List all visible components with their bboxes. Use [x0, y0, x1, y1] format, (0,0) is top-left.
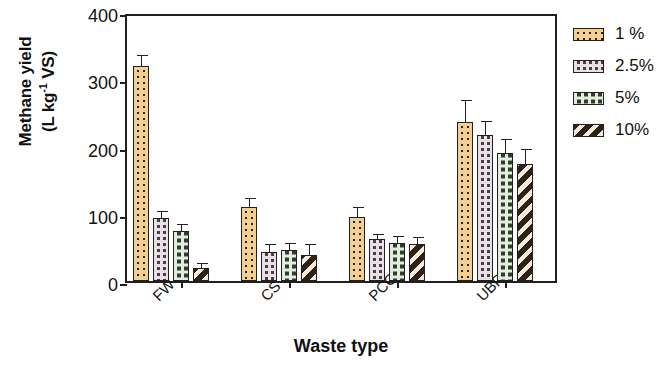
y-axis-title: Methane yield (L kg-1 VS)	[16, 0, 59, 202]
y-axis-tick-label: 0	[108, 275, 118, 296]
bar	[517, 164, 533, 281]
error-bar	[181, 225, 182, 231]
bar	[173, 231, 189, 281]
bar	[477, 135, 493, 281]
y-axis-title-line2: (L kg-1 VS)	[37, 0, 59, 202]
x-axis-tick	[289, 281, 291, 288]
error-bar	[357, 208, 358, 217]
error-bar	[269, 245, 270, 252]
error-bar	[465, 101, 466, 121]
error-bar	[417, 238, 418, 244]
bar	[409, 244, 425, 281]
error-bar	[201, 264, 202, 268]
bar	[301, 255, 317, 281]
error-bar	[141, 56, 142, 65]
legend-item: 1 %	[573, 18, 665, 50]
error-bar	[525, 150, 526, 164]
legend: 1 %2.5%5%10%	[573, 18, 665, 146]
x-axis-tick	[181, 281, 183, 288]
legend-label: 10%	[615, 120, 649, 140]
bar	[133, 66, 149, 281]
error-bar	[377, 235, 378, 240]
plot-area: 0100200300400FWCSPCGUBP	[125, 14, 557, 283]
error-bar	[309, 245, 310, 256]
x-axis-category-label: CS	[257, 277, 284, 304]
legend-item: 10%	[573, 114, 665, 146]
methane-yield-bar-chart: Methane yield (L kg-1 VS) 0100200300400F…	[0, 0, 667, 367]
legend-swatch	[573, 60, 604, 73]
legend-label: 5%	[615, 88, 640, 108]
bar	[261, 252, 277, 281]
bar	[497, 153, 513, 281]
bar	[349, 217, 365, 281]
legend-swatch	[573, 92, 604, 105]
error-bar	[505, 140, 506, 153]
bar	[193, 268, 209, 281]
error-bar	[397, 237, 398, 242]
y-axis-unit-prefix: (L kg	[39, 93, 58, 132]
y-axis-tick-label: 100	[88, 207, 118, 228]
bar	[281, 250, 297, 281]
legend-label: 2.5%	[615, 56, 654, 76]
y-axis-title-line1: Methane yield	[16, 37, 35, 147]
x-axis-title: Waste type	[125, 336, 557, 357]
legend-swatch	[573, 124, 604, 137]
bar	[241, 207, 257, 281]
bar	[153, 218, 169, 281]
y-axis-tick	[120, 82, 127, 84]
error-bar	[289, 244, 290, 250]
y-axis-unit-exponent: -1	[37, 83, 49, 92]
bar	[457, 122, 473, 281]
y-axis-unit-suffix: VS)	[39, 51, 58, 83]
error-bar	[485, 122, 486, 135]
y-axis-tick	[120, 284, 127, 286]
error-bar	[161, 212, 162, 217]
y-axis-tick	[120, 150, 127, 152]
legend-swatch	[573, 28, 604, 41]
y-axis-tick	[120, 217, 127, 219]
y-axis-tick	[120, 15, 127, 17]
bar	[389, 243, 405, 281]
legend-label: 1 %	[615, 24, 644, 44]
bar	[369, 239, 385, 281]
y-axis-tick-label: 200	[88, 140, 118, 161]
y-axis-tick-label: 400	[88, 6, 118, 27]
legend-item: 2.5%	[573, 50, 665, 82]
y-axis-tick-label: 300	[88, 73, 118, 94]
error-bar	[249, 199, 250, 207]
legend-item: 5%	[573, 82, 665, 114]
